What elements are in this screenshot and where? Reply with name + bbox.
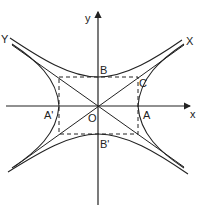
label-x: x	[190, 108, 196, 120]
label-X: X	[186, 35, 194, 47]
conjugate-top-branch	[10, 38, 182, 77]
hyperbola-diagram: y x X Y B B' A A' C O	[0, 0, 213, 205]
label-A: A	[143, 109, 151, 121]
label-B-prime: B'	[100, 138, 109, 150]
label-y: y	[85, 12, 91, 24]
label-B: B	[100, 64, 107, 76]
label-Y: Y	[1, 33, 9, 45]
label-A-prime: A'	[44, 109, 53, 121]
label-C: C	[139, 77, 147, 89]
label-O: O	[88, 112, 97, 124]
